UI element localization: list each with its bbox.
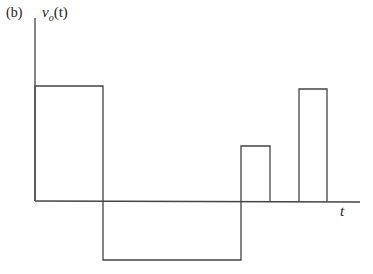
x-axis xyxy=(35,201,360,202)
x-axis-label: t xyxy=(340,203,344,220)
panel-label: (b) xyxy=(6,5,22,21)
y-axis-label: vo(t) xyxy=(42,4,68,23)
pulse-positive-2 xyxy=(241,146,270,202)
waveform-diagram xyxy=(0,0,373,274)
pulse-positive-1 xyxy=(35,86,103,201)
pulse-negative xyxy=(103,201,241,260)
pulse-positive-3 xyxy=(299,89,327,202)
